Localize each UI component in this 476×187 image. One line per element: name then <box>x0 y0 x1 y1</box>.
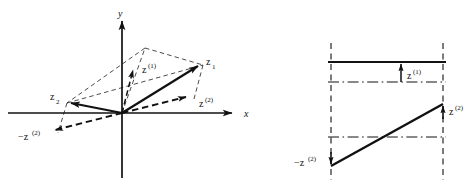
label-right-negative-z-superscript-2: −z (2) <box>294 155 317 168</box>
svg-text:(1): (1) <box>413 68 422 76</box>
construction-line-z1-down <box>194 65 203 99</box>
svg-text:1: 1 <box>212 63 216 71</box>
svg-text:z: z <box>50 91 55 102</box>
label-z2: z 2 <box>50 91 60 106</box>
svg-text:z: z <box>206 56 211 67</box>
right-panel: z (1) z (2) −z (2) <box>294 43 464 180</box>
left-panel: x y z 1 z 2 z <box>8 8 249 178</box>
svg-text:2: 2 <box>56 98 60 106</box>
label-right-z-superscript-1: z (1) <box>407 68 422 81</box>
sloped-profile-line <box>331 104 443 166</box>
svg-text:(2): (2) <box>32 129 41 137</box>
vector-negative-z-superscript-2 <box>55 113 122 130</box>
y-axis-label: y <box>117 8 123 19</box>
construction-parallelogram <box>58 48 203 133</box>
label-negative-z-superscript-2: −z (2) <box>18 129 41 142</box>
svg-text:z: z <box>142 64 147 75</box>
svg-text:(2): (2) <box>308 155 317 163</box>
figure-container: x y z 1 z 2 z <box>0 0 476 187</box>
svg-text:z: z <box>449 106 454 117</box>
vector-decomposition-figure: x y z 1 z 2 z <box>0 0 476 187</box>
svg-text:−z: −z <box>18 131 29 142</box>
label-z-superscript-1: z (1) <box>142 62 157 75</box>
construction-line-apex-z2 <box>67 48 145 103</box>
svg-text:(1): (1) <box>148 62 157 70</box>
label-right-z-superscript-2: z (2) <box>449 104 464 117</box>
vector-z2 <box>71 103 122 113</box>
construction-line-origin-apex <box>122 48 145 113</box>
svg-text:−z: −z <box>294 157 305 168</box>
svg-text:z: z <box>407 70 412 81</box>
vector-z-superscript-2 <box>122 97 186 113</box>
svg-text:z: z <box>199 98 204 109</box>
label-z1: z 1 <box>206 56 216 71</box>
x-axis-label: x <box>243 108 249 119</box>
svg-text:(2): (2) <box>455 104 464 112</box>
vector-z1 <box>122 66 198 113</box>
svg-text:(2): (2) <box>205 96 214 104</box>
label-z-superscript-2: z (2) <box>199 96 214 109</box>
